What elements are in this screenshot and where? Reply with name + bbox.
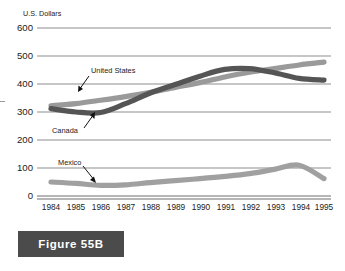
series-line-canada: [51, 68, 324, 113]
x-axis-tick-labels: 1984 1985 1986 1987 1988 1989 1990 1991 …: [42, 202, 334, 212]
annotation-label-canada: Canada: [52, 126, 79, 135]
annotation-arrowhead-united-states: [78, 86, 83, 93]
xtick-label-1987: 1987: [117, 202, 136, 212]
annotation-label-united-states: United States: [91, 66, 136, 75]
figure-caption-label: Figure 55B: [38, 238, 103, 250]
xtick-label-1990: 1990: [192, 202, 211, 212]
line-chart: U.S. Dollars 600 500 400 300 200 100 0 1…: [0, 0, 345, 225]
annotation-united-states: United States: [78, 66, 136, 92]
figure-55b: U.S. Dollars 600 500 400 300 200 100 0 1…: [0, 0, 345, 271]
ytick-label-200: 200: [17, 134, 33, 145]
xtick-label-1995: 1995: [315, 202, 334, 212]
xtick-label-1994: 1994: [292, 202, 311, 212]
xtick-label-1985: 1985: [67, 202, 86, 212]
ytick-label-0: 0: [28, 190, 33, 201]
y-axis-title: U.S. Dollars: [23, 9, 62, 18]
annotation-mexico: Mexico: [58, 158, 96, 183]
xtick-label-1993: 1993: [267, 202, 286, 212]
ytick-label-300: 300: [17, 106, 33, 117]
ytick-label-600: 600: [17, 22, 33, 33]
xtick-label-1992: 1992: [242, 202, 261, 212]
series-lines: [51, 62, 324, 185]
ytick-label-400: 400: [17, 78, 33, 89]
xtick-label-1984: 1984: [42, 202, 61, 212]
ytick-label-500: 500: [17, 50, 33, 61]
xtick-label-1991: 1991: [217, 202, 236, 212]
xtick-label-1988: 1988: [142, 202, 161, 212]
xtick-label-1986: 1986: [92, 202, 111, 212]
xtick-label-1989: 1989: [167, 202, 186, 212]
annotation-arrowhead-mexico: [90, 177, 96, 184]
ytick-label-100: 100: [17, 162, 33, 173]
figure-caption-box: Figure 55B: [18, 231, 124, 257]
y-axis-tick-labels: 600 500 400 300 200 100 0: [17, 22, 33, 201]
annotation-label-mexico: Mexico: [58, 158, 81, 167]
